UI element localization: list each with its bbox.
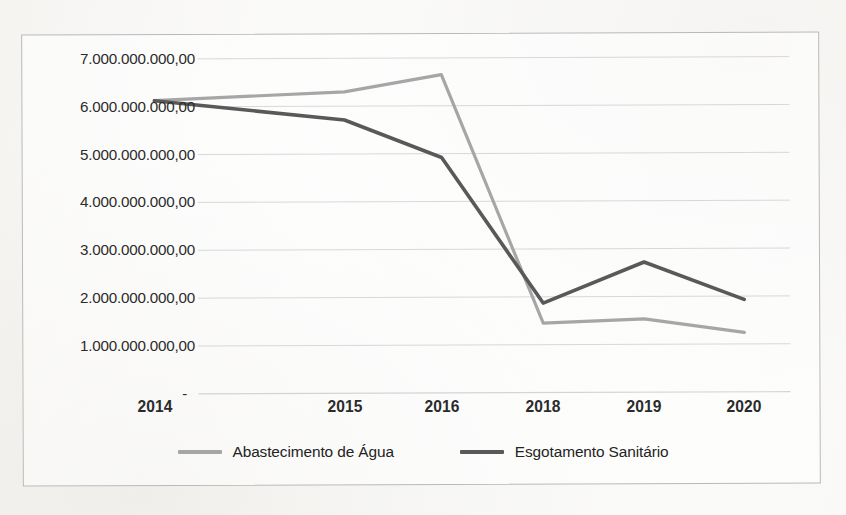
legend-label: Esgotamento Sanitário: [515, 443, 669, 461]
legend-item[interactable]: Esgotamento Sanitário: [460, 443, 669, 461]
legend-label: Abastecimento de Água: [233, 443, 394, 461]
x-axis-tick-label: 2020: [726, 398, 761, 416]
x-axis-tick-label: 2018: [525, 398, 560, 416]
y-axis-tick-label: 6.000.000.000,00: [80, 97, 195, 114]
y-axis-tick-label: 3.000.000.000,00: [80, 241, 195, 258]
y-axis-tick-label: -: [182, 384, 195, 401]
legend-swatch-icon: [460, 450, 504, 453]
legend-item[interactable]: Abastecimento de Água: [178, 443, 394, 461]
x-axis-tick-label: 2014: [137, 398, 172, 416]
x-axis-tick-label: 2016: [424, 398, 459, 416]
x-axis-tick-label: 2019: [626, 398, 661, 416]
y-axis-tick-label: 2.000.000.000,00: [80, 289, 195, 306]
y-axis-tick-labels: 7.000.000.000,006.000.000.000,005.000.00…: [38, 0, 195, 515]
x-axis-tick-label: 2015: [327, 398, 362, 416]
y-axis-tick-label: 1.000.000.000,00: [80, 337, 195, 354]
chart-page: 7.000.000.000,006.000.000.000,005.000.00…: [0, 0, 846, 515]
chart-legend: Abastecimento de ÁguaEsgotamento Sanitár…: [0, 443, 846, 461]
legend-swatch-icon: [178, 450, 222, 453]
y-axis-tick-label: 4.000.000.000,00: [80, 193, 195, 210]
y-axis-tick-label: 7.000.000.000,00: [80, 49, 195, 66]
y-axis-tick-label: 5.000.000.000,00: [80, 145, 195, 162]
